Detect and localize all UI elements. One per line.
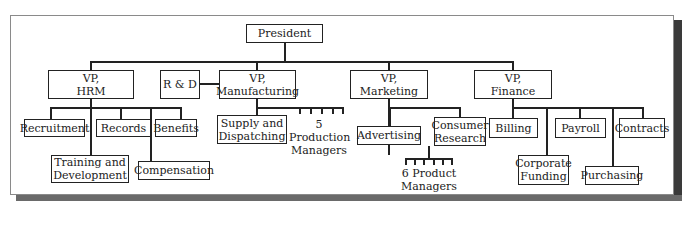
connector bbox=[512, 61, 514, 70]
connector bbox=[256, 61, 258, 70]
node-president: President bbox=[246, 24, 323, 43]
node-corporate-funding: Corporate Funding bbox=[518, 155, 569, 185]
tick bbox=[342, 107, 344, 114]
frame-shadow-right bbox=[674, 20, 682, 200]
connector bbox=[612, 107, 614, 166]
tick bbox=[433, 158, 435, 165]
tick bbox=[310, 107, 312, 114]
node-payroll: Payroll bbox=[555, 118, 606, 138]
node-contracts: Contracts bbox=[619, 118, 665, 138]
connector bbox=[388, 61, 390, 70]
connector bbox=[405, 158, 453, 160]
node-billing: Billing bbox=[489, 118, 538, 138]
node-vp-manufacturing: VP, Manufacturing bbox=[219, 70, 296, 99]
connector bbox=[180, 107, 182, 119]
tick bbox=[332, 107, 334, 114]
node-training-development: Training and Development bbox=[51, 155, 129, 183]
node-consumer-research: Consumer Research bbox=[434, 117, 486, 146]
node-rd: R & D bbox=[160, 70, 200, 99]
label-product-managers: 6 Product Managers bbox=[398, 167, 460, 193]
node-vp-marketing: VP, Marketing bbox=[350, 70, 428, 99]
tick bbox=[414, 158, 416, 165]
node-recruitment: Recruitment bbox=[24, 119, 85, 137]
connector bbox=[50, 107, 181, 109]
label-production-managers: 5 Production Managers bbox=[289, 118, 349, 157]
tick bbox=[321, 107, 323, 114]
node-advertising: Advertising bbox=[357, 126, 421, 145]
tick bbox=[451, 158, 453, 165]
connector bbox=[389, 107, 461, 109]
node-vp-hrm: VP, HRM bbox=[48, 70, 134, 99]
connector bbox=[579, 107, 581, 118]
node-compensation: Compensation bbox=[138, 161, 210, 180]
connector bbox=[50, 107, 52, 119]
node-benefits: Benefits bbox=[155, 119, 197, 137]
tick bbox=[299, 107, 301, 114]
connector bbox=[546, 107, 548, 155]
connector bbox=[120, 107, 122, 119]
node-supply-dispatching: Supply and Dispatching bbox=[217, 115, 287, 144]
connector bbox=[428, 146, 430, 158]
node-vp-finance: VP, Finance bbox=[474, 70, 552, 99]
connector bbox=[642, 107, 644, 118]
tick bbox=[442, 158, 444, 165]
connector bbox=[389, 107, 391, 126]
connector bbox=[90, 61, 92, 70]
connector-vp-bar bbox=[90, 61, 514, 63]
connector bbox=[512, 107, 644, 109]
node-purchasing: Purchasing bbox=[585, 166, 639, 185]
connector bbox=[284, 43, 286, 62]
frame-shadow-bottom bbox=[16, 195, 682, 201]
node-records: Records bbox=[96, 119, 151, 137]
tick bbox=[405, 158, 407, 165]
tick bbox=[423, 158, 425, 165]
